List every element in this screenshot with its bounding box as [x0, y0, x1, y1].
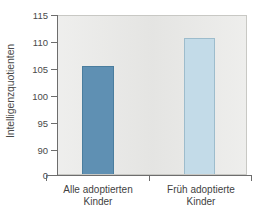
y-tick-label-105: 105 [32, 64, 48, 75]
y-axis-title-text: Intelligenzquotienten [4, 44, 16, 138]
y-axis-line [57, 15, 58, 176]
x-tick-mark-left [46, 176, 47, 181]
y-tick-label-115: 115 [33, 10, 48, 21]
x-category-label-alle-adoptierten-kinder: Alle adoptierten Kinder [46, 184, 150, 208]
bar-chart-figure: Intelligenzquotienten 115 110 105 100 95… [0, 0, 258, 216]
y-axis-title: Intelligenzquotienten [0, 0, 20, 182]
x-category-label-frueh-adoptierte-kinder: Früh adoptierte Kinder [149, 184, 253, 208]
bar-frueh-adoptierte-kinder [184, 38, 215, 174]
x-tick-mark-right [251, 176, 252, 181]
x-tick-mark-middle [149, 176, 150, 181]
bar-alle-adoptierten-kinder [82, 66, 114, 174]
y-tick-label-110: 110 [33, 37, 48, 48]
plot-area [57, 15, 247, 175]
y-tick-label-100: 100 [32, 91, 48, 102]
y-tick-label-90: 90 [37, 145, 48, 156]
y-tick-label-95: 95 [37, 118, 48, 129]
